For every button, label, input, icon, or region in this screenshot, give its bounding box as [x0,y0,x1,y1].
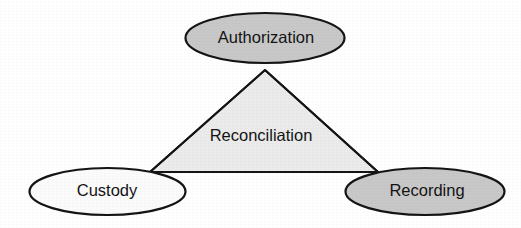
reconciliation-triangle[interactable] [150,70,378,172]
node-custody-label: Custody [77,181,138,199]
node-authorization-label: Authorization [218,28,314,46]
node-custody[interactable]: Custody [30,168,186,215]
center-region-group [150,70,378,172]
node-recording-label: Recording [389,181,464,199]
reconciliation-label: Reconciliation [210,126,313,144]
node-recording[interactable]: Recording [346,168,505,215]
diagram-svg: Reconciliation Authorization Custody Rec… [0,0,521,228]
diagram-canvas: Reconciliation Authorization Custody Rec… [0,0,521,228]
node-authorization[interactable]: Authorization [186,13,345,63]
